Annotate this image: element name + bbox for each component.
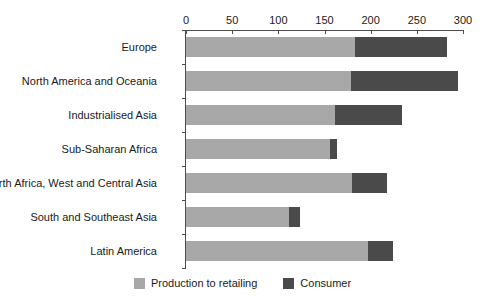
y-axis-category-label: Latin America bbox=[90, 234, 157, 268]
bar-segment-consumer bbox=[330, 139, 337, 159]
bar-segment-consumer bbox=[351, 71, 458, 91]
bar-segment-production-to-retailing bbox=[186, 207, 289, 227]
stacked-bar bbox=[186, 173, 387, 193]
chart-row: North Africa, West and Central Asia bbox=[186, 166, 463, 200]
x-axis-tick-label: 0 bbox=[183, 14, 189, 26]
y-axis-tick bbox=[182, 268, 186, 269]
stacked-bar bbox=[186, 207, 300, 227]
bar-segment-production-to-retailing bbox=[186, 139, 330, 159]
x-axis-tick-label: 300 bbox=[454, 14, 472, 26]
y-axis-category-label: Sub-Saharan Africa bbox=[62, 132, 157, 166]
chart-row: Latin America bbox=[186, 234, 463, 268]
bar-segment-production-to-retailing bbox=[186, 241, 368, 261]
bar-segment-production-to-retailing bbox=[186, 71, 351, 91]
bar-segment-production-to-retailing bbox=[186, 173, 352, 193]
legend-swatch-production-to-retailing bbox=[134, 278, 145, 289]
legend-item-production-to-retailing: Production to retailing bbox=[134, 277, 257, 289]
bar-segment-consumer bbox=[289, 207, 300, 227]
stacked-bar bbox=[186, 71, 458, 91]
legend-label-production-to-retailing: Production to retailing bbox=[151, 277, 257, 289]
y-axis-category-label: North Africa, West and Central Asia bbox=[0, 166, 157, 200]
bar-segment-production-to-retailing bbox=[186, 37, 355, 57]
stacked-bar bbox=[186, 139, 337, 159]
legend-label-consumer: Consumer bbox=[300, 277, 351, 289]
chart-row: South and Southeast Asia bbox=[186, 200, 463, 234]
chart-row: Industrialised Asia bbox=[186, 98, 463, 132]
bar-segment-consumer bbox=[368, 241, 393, 261]
x-axis-tick bbox=[463, 30, 464, 34]
stacked-bar bbox=[186, 241, 393, 261]
bar-segment-consumer bbox=[355, 37, 447, 57]
x-axis-tick-label: 50 bbox=[226, 14, 238, 26]
legend-item-consumer: Consumer bbox=[283, 277, 351, 289]
bar-segment-consumer bbox=[352, 173, 387, 193]
y-axis-category-label: Europe bbox=[122, 30, 157, 64]
y-axis-category-label: North America and Oceania bbox=[22, 64, 157, 98]
stacked-bar bbox=[186, 37, 447, 57]
bar-segment-production-to-retailing bbox=[186, 105, 335, 125]
stacked-bar bbox=[186, 105, 402, 125]
chart-row: Sub-Saharan Africa bbox=[186, 132, 463, 166]
chart-row: North America and Oceania bbox=[186, 64, 463, 98]
plot-area: 050100150200250300EuropeNorth America an… bbox=[186, 30, 463, 268]
bar-segment-consumer bbox=[335, 105, 402, 125]
x-axis-tick-label: 200 bbox=[361, 14, 379, 26]
y-axis-category-label: South and Southeast Asia bbox=[30, 200, 157, 234]
x-axis-tick-label: 100 bbox=[269, 14, 287, 26]
stacked-bar-chart: 050100150200250300EuropeNorth America an… bbox=[0, 0, 485, 298]
legend-swatch-consumer bbox=[283, 278, 294, 289]
x-axis-tick-label: 250 bbox=[408, 14, 426, 26]
y-axis-category-label: Industrialised Asia bbox=[68, 98, 157, 132]
chart-legend: Production to retailing Consumer bbox=[0, 277, 485, 289]
x-axis-tick-label: 150 bbox=[315, 14, 333, 26]
chart-row: Europe bbox=[186, 30, 463, 64]
